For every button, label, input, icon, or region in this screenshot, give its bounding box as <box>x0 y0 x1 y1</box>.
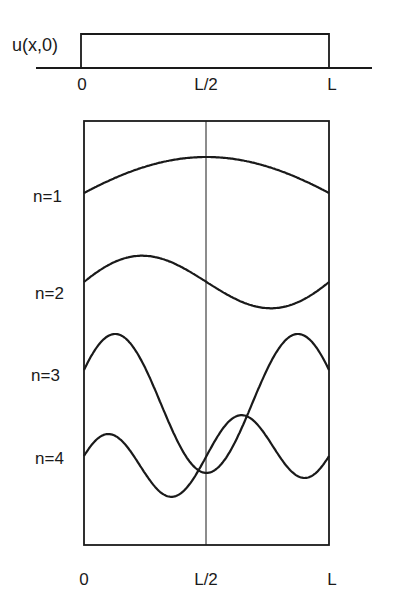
mode-label-n3: n=3 <box>31 367 60 384</box>
mode-label-n2: n=2 <box>35 285 64 302</box>
mode-label-n4: n=4 <box>35 450 64 467</box>
bottom-tick-half-l: L/2 <box>194 571 218 588</box>
top-tick-0: 0 <box>77 76 86 93</box>
mode-label-n1: n=1 <box>33 188 62 205</box>
top-tick-l: L <box>327 76 336 93</box>
bottom-tick-l: L <box>327 571 336 588</box>
top-tick-half-l: L/2 <box>194 76 218 93</box>
bottom-tick-0: 0 <box>79 571 88 588</box>
initial-condition-pulse <box>81 34 329 68</box>
standing-wave-modes-figure: u(x,0) 0 L/2 L n=1 n=2 n=3 n=4 0 L/2 L <box>0 0 394 609</box>
initial-condition-label: u(x,0) <box>12 37 58 54</box>
